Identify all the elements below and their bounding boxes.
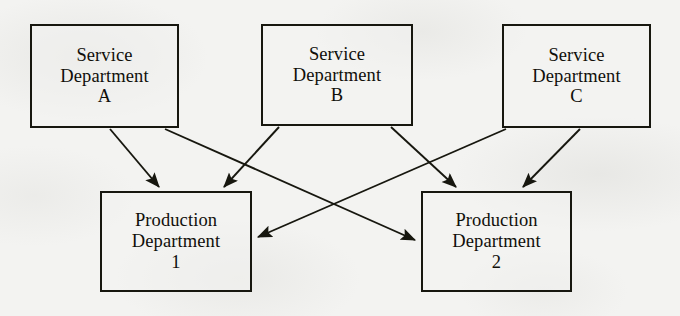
edge-service-a-to-production-1 bbox=[110, 129, 159, 187]
node-production-department-1: Production Department 1 bbox=[100, 191, 252, 292]
edge-service-c-to-production-2 bbox=[523, 129, 580, 187]
node-service-department-b: Service Department B bbox=[261, 24, 413, 126]
node-label-line-3: C bbox=[570, 86, 582, 107]
node-label-line-3: B bbox=[331, 85, 343, 106]
cost-allocation-diagram: Service Department A Service Department … bbox=[0, 0, 680, 316]
node-label-line-2: Department bbox=[293, 65, 381, 86]
node-label-line-3: 1 bbox=[171, 252, 180, 273]
node-label-line-2: Department bbox=[532, 66, 620, 87]
node-label-line-1: Production bbox=[455, 210, 537, 231]
node-label-line-2: Department bbox=[132, 231, 220, 252]
node-label-line-1: Production bbox=[135, 210, 217, 231]
node-label-line-3: A bbox=[98, 86, 111, 107]
node-service-department-a: Service Department A bbox=[30, 24, 179, 128]
node-label-line-2: Department bbox=[452, 231, 540, 252]
node-service-department-c: Service Department C bbox=[502, 24, 651, 128]
node-label-line-1: Service bbox=[309, 44, 365, 65]
node-label-line-2: Department bbox=[60, 66, 148, 87]
node-label-line-1: Service bbox=[76, 45, 132, 66]
edge-service-b-to-production-2 bbox=[391, 127, 456, 187]
node-label-line-3: 2 bbox=[492, 252, 501, 273]
edge-service-b-to-production-1 bbox=[224, 127, 279, 187]
node-label-line-1: Service bbox=[548, 45, 604, 66]
node-production-department-2: Production Department 2 bbox=[421, 191, 572, 292]
